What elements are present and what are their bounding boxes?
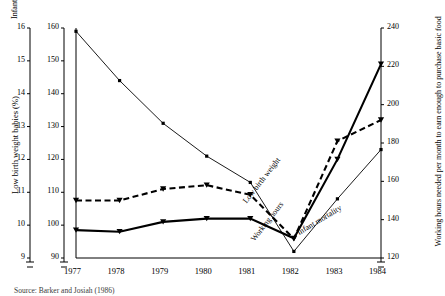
left-inner-tick-150: 150 — [47, 55, 59, 64]
right-tick-120: 120 — [387, 252, 399, 261]
x-tick-1979: 1979 — [151, 266, 168, 276]
x-tick-1982: 1982 — [282, 266, 299, 276]
left-inner-tick-120: 120 — [47, 153, 59, 162]
left-inner-tick-160: 160 — [47, 22, 59, 31]
left-outer-tick-15: 15 — [17, 55, 25, 64]
right-tick-160: 160 — [387, 175, 399, 184]
left-outer-tick-14: 14 — [17, 88, 25, 97]
left-outer-tick-13: 13 — [17, 121, 25, 130]
right-tick-200: 200 — [387, 99, 399, 108]
left-outer-tick-16: 16 — [17, 22, 25, 31]
left-inner-tick-140: 140 — [47, 88, 59, 97]
right-tick-180: 180 — [387, 137, 399, 146]
x-tick-1983: 1983 — [325, 266, 342, 276]
left-inner-tick-100: 100 — [47, 219, 59, 228]
left-inner-tick-110: 110 — [47, 186, 59, 195]
left-inner-tick-90: 90 — [51, 252, 59, 261]
x-tick-1984: 1984 — [369, 266, 386, 276]
chart-figure: Low birth weight babies (%) Infant morta… — [0, 0, 445, 296]
left-inner-tick-130: 130 — [47, 121, 59, 130]
chart-svg — [0, 0, 445, 296]
right-tick-220: 220 — [387, 60, 399, 69]
left-outer-tick-9: 9 — [21, 252, 25, 261]
x-tick-1978: 1978 — [108, 266, 125, 276]
left-outer-tick-11: 11 — [17, 186, 25, 195]
x-tick-1980: 1980 — [195, 266, 212, 276]
x-tick-1977: 1977 — [64, 266, 81, 276]
left-outer-tick-10: 10 — [17, 219, 25, 228]
right-tick-140: 140 — [387, 214, 399, 223]
x-tick-1981: 1981 — [238, 266, 255, 276]
source-note: Source: Barker and Josiah (1986) — [14, 286, 114, 295]
right-tick-240: 240 — [387, 22, 399, 31]
left-outer-tick-12: 12 — [17, 153, 25, 162]
